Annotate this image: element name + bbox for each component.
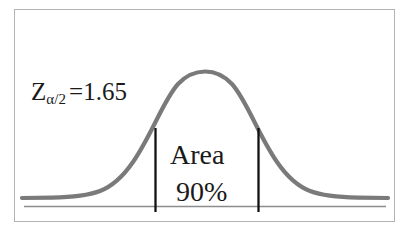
normal-curve-figure: Zα/2=1.65 Area 90% <box>0 0 406 238</box>
area-percent-label: 90% <box>176 178 227 206</box>
z-subscript: α/2 <box>46 91 66 107</box>
z-symbol: Z <box>31 78 46 105</box>
z-value: =1.65 <box>69 78 127 105</box>
area-label: Area <box>170 141 224 169</box>
critical-value-label: Zα/2=1.65 <box>31 79 127 107</box>
